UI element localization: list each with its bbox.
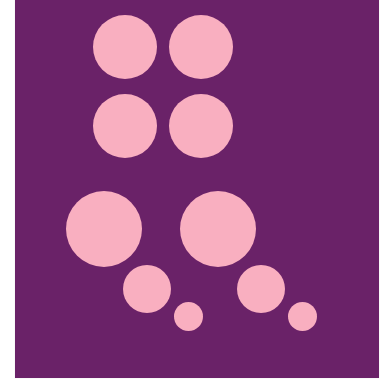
pink-dot-second-left xyxy=(93,94,157,158)
pink-dot-medium-right xyxy=(237,265,285,313)
pink-dot-small-left xyxy=(174,302,203,331)
pink-dot-large-right xyxy=(180,191,256,267)
pink-dot-medium-left xyxy=(123,265,171,313)
pink-dot-top-right xyxy=(169,15,233,79)
pink-dot-large-left xyxy=(66,191,142,267)
pink-dot-top-left xyxy=(93,15,157,79)
pink-dot-second-right xyxy=(169,94,233,158)
pink-dot-small-right xyxy=(288,302,317,331)
